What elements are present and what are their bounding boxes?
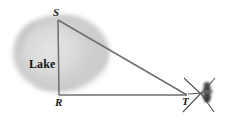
- vertex-label-t: T: [182, 96, 189, 107]
- region-label-lake: Lake: [29, 58, 55, 70]
- segment-sr: [58, 20, 59, 95]
- lake-shape: [8, 12, 115, 97]
- instrument-scope: [202, 90, 213, 94]
- vertex-label-s: S: [53, 7, 59, 18]
- lake-survey-figure: S R T Lake: [0, 0, 227, 120]
- instrument-foot: [204, 99, 209, 102]
- instrument-body-group: [202, 82, 213, 102]
- vertex-label-r: R: [55, 97, 62, 108]
